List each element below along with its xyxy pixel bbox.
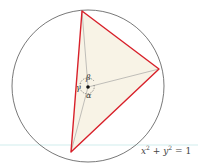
eq-plus: +: [153, 146, 161, 156]
eq-equals: = 1: [175, 146, 191, 156]
diagram-canvas: β α γ x2 + y2 = 1: [0, 0, 198, 168]
eq-x-exp: 2: [146, 144, 150, 151]
circle-equation: x2 + y2 = 1: [141, 144, 191, 156]
triangle-circle-figure: β α γ: [0, 0, 198, 168]
center-point: [86, 85, 90, 89]
eq-y-exp: 2: [168, 144, 172, 151]
alpha-label: α: [86, 91, 92, 100]
beta-label: β: [85, 73, 91, 82]
gamma-label: γ: [76, 83, 81, 92]
